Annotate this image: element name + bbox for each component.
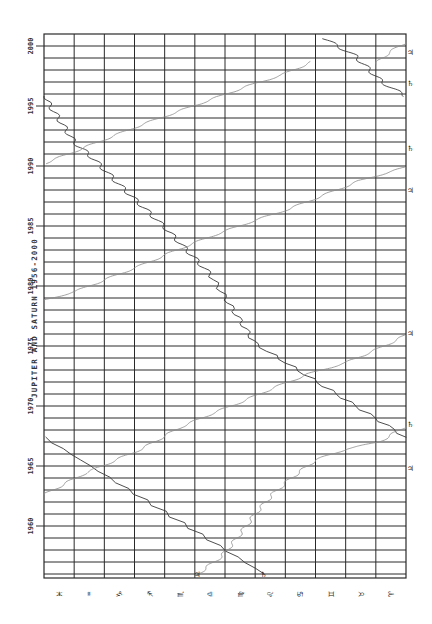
planet-path-segment <box>47 62 311 164</box>
year-tick-label: 2000 <box>27 38 35 55</box>
zodiac-gemini-icon: ♊ <box>326 591 336 597</box>
chart-title: JUPITER AND SATURN 1956-2000 <box>30 238 39 398</box>
zodiac-axis-labels: ♓♒♑♐♏♎♍♌♋♊♉♈ <box>54 591 396 597</box>
planet-path-segment <box>198 426 406 574</box>
planet-symbol-icon: ♃ <box>408 186 413 195</box>
zodiac-virgo-icon: ♍ <box>235 591 245 597</box>
zodiac-aquarius-icon: ♒ <box>84 591 94 597</box>
year-tick-label: 1985 <box>27 218 35 235</box>
zodiac-pisces-icon: ♓ <box>54 591 64 597</box>
planet-symbol-icon: ♃ <box>408 464 413 473</box>
planet-symbol-icon: ♃ <box>408 329 413 338</box>
zodiac-cancer-icon: ♋ <box>295 591 305 596</box>
planet-symbol-icon: ♄ <box>261 570 266 579</box>
zodiac-capricorn-icon: ♑ <box>114 591 124 597</box>
zodiac-sagittarius-icon: ♐ <box>145 591 155 597</box>
planet-symbol-icon: ♄ <box>408 420 413 429</box>
year-tick-label: 1960 <box>27 518 35 535</box>
zodiac-libra-icon: ♎ <box>205 591 215 597</box>
planet-symbol-icon: ♃ <box>408 48 413 57</box>
zodiac-scorpio-icon: ♏ <box>175 591 185 597</box>
planet-path-segment <box>44 167 405 300</box>
planet-path-segment <box>323 39 403 97</box>
year-tick-label: 1995 <box>27 98 35 115</box>
planet-longitude-chart: ♄♃♃♄♃♃♄♄♃ 196019651970197519801985199019… <box>0 0 432 624</box>
zodiac-aries-icon: ♈ <box>386 591 396 597</box>
year-tick-label: 1965 <box>27 458 35 475</box>
planet-symbol-icon: ♄ <box>408 79 413 88</box>
planet-symbol-icon: ♄ <box>408 144 413 153</box>
zodiac-taurus-icon: ♉ <box>356 591 366 597</box>
planet-path-segment <box>46 437 264 574</box>
wrap-markers: ♄♃♃♄♃♃♄♄♃ <box>195 48 413 579</box>
year-tick-label: 1990 <box>27 158 35 175</box>
planet-symbol-icon: ♃ <box>195 570 200 579</box>
chart-grid <box>44 34 406 578</box>
year-tick-label: 1970 <box>27 398 35 415</box>
zodiac-leo-icon: ♌ <box>265 591 275 596</box>
